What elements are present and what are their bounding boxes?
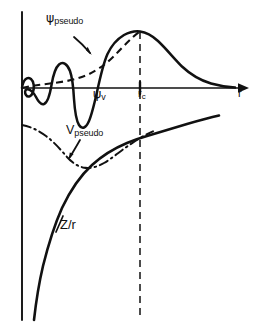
psi-valence-symbol: ψ xyxy=(93,86,101,101)
psi-pseudo-label: ψpseudo xyxy=(46,12,83,25)
v-pseudo-label: Vpseudo xyxy=(66,124,103,137)
pseudopotential-figure: ψpseudo ψv rc r Vpseudo Z/r xyxy=(0,0,258,328)
psi-pseudo-symbol: ψ xyxy=(46,10,54,25)
r-axis-label: r xyxy=(238,88,242,99)
axes-group xyxy=(22,12,249,320)
psi-pseudo-subscript: pseudo xyxy=(54,16,83,26)
psi-valence-subscript: v xyxy=(101,92,105,102)
psi-valence-curve xyxy=(22,31,235,127)
figure-canvas xyxy=(0,0,258,328)
r-cutoff-label: rc xyxy=(138,88,146,99)
psi-pseudo-curve xyxy=(22,32,140,88)
psi-valence-label: ψv xyxy=(93,88,106,101)
r-cutoff-subscript: c xyxy=(142,92,146,101)
v-pseudo-subscript: pseudo xyxy=(74,128,103,138)
coulomb-label: Z/r xyxy=(60,218,76,231)
psi-valence-leader xyxy=(90,84,92,90)
psi-pseudo-arrow xyxy=(74,37,92,55)
v-pseudo-arrow xyxy=(69,140,80,159)
